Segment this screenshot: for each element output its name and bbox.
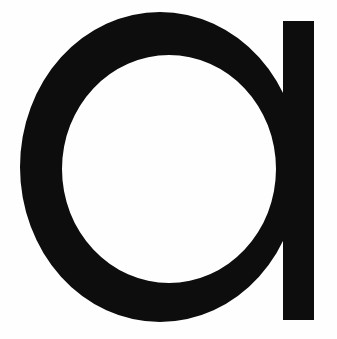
- letter-a-glyph: [0, 0, 337, 339]
- image-canvas: a: [0, 0, 337, 339]
- letter-a-stem: [283, 21, 314, 320]
